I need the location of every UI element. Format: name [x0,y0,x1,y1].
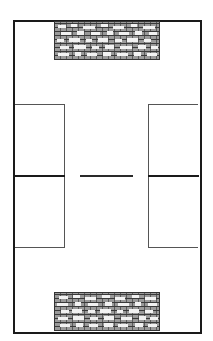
stone-pattern-icon [55,293,160,331]
top-stone-area [54,21,160,60]
center-line [80,175,133,177]
bottom-stone-area [54,292,160,331]
right-divider-line [148,175,199,177]
floor-plan-canvas [0,0,213,341]
stone-pattern-icon [55,22,160,60]
left-divider-line [14,175,65,177]
